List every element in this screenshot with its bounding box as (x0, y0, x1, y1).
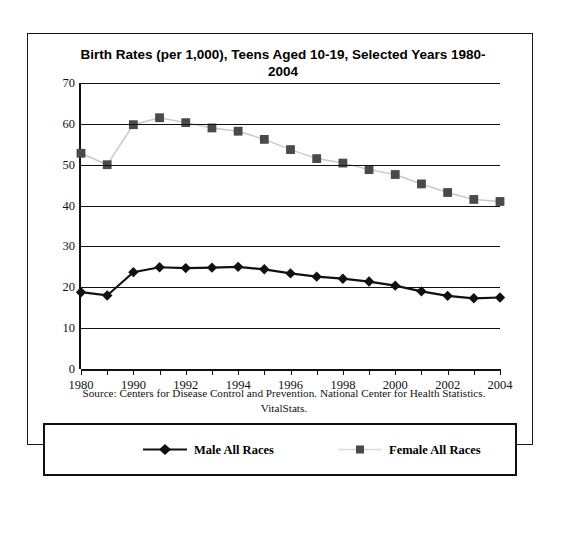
x-tick-1993 (212, 369, 213, 375)
legend-label-female: Female All Races (389, 442, 481, 457)
source-note: Source: Centers for Disease Control and … (74, 386, 494, 416)
data-point (233, 262, 243, 272)
x-tick-1980 (81, 369, 82, 375)
gridline-30 (81, 246, 500, 247)
x-tick-2003 (474, 369, 475, 375)
x-tick-1996 (291, 369, 292, 375)
data-point (391, 170, 400, 179)
x-tick-2002 (448, 369, 449, 375)
x-tick-1989 (107, 369, 108, 375)
data-point (443, 188, 452, 197)
y-tick-label-10: 10 (63, 321, 76, 336)
data-point (390, 280, 400, 290)
data-point (442, 291, 452, 301)
data-point (469, 195, 478, 204)
plot-area: 0102030405060701980199019921994199619982… (79, 83, 500, 369)
y-tick-label-20: 20 (63, 280, 76, 295)
y-tick-label-0: 0 (69, 362, 75, 377)
data-point (496, 197, 505, 206)
series-line-female-all-races (81, 118, 500, 202)
data-point (260, 135, 269, 144)
x-tick-1999 (369, 369, 370, 375)
data-point (312, 154, 321, 163)
data-point (311, 271, 321, 281)
data-point (285, 268, 295, 278)
gridline-20 (81, 287, 500, 288)
x-tick-1997 (317, 369, 318, 375)
x-tick-2004 (500, 369, 501, 375)
x-tick-2000 (395, 369, 396, 375)
x-tick-1991 (160, 369, 161, 375)
y-tick-label-60: 60 (63, 116, 76, 131)
x-tick-1990 (133, 369, 134, 375)
y-tick-label-70: 70 (63, 76, 76, 91)
male-marker-icon (143, 443, 187, 457)
chart-frame: Birth Rates (per 1,000), Teens Aged 10-1… (27, 33, 533, 445)
series-lines (81, 83, 500, 369)
data-point (259, 264, 269, 274)
x-tick-1992 (186, 369, 187, 375)
data-point (154, 262, 164, 272)
chart-title: Birth Rates (per 1,000), Teens Aged 10-1… (78, 46, 488, 80)
data-point (76, 287, 86, 297)
data-point (155, 113, 164, 122)
data-point (417, 180, 426, 189)
y-tick-label-50: 50 (63, 157, 76, 172)
gridline-10 (81, 328, 500, 329)
data-point (181, 263, 191, 273)
y-tick-label-30: 30 (63, 239, 76, 254)
x-tick-1998 (343, 369, 344, 375)
data-point (207, 262, 217, 272)
data-point (364, 276, 374, 286)
data-point (234, 127, 243, 136)
x-tick-1994 (238, 369, 239, 375)
chart-legend: Male All Races Female All Races (43, 423, 517, 476)
gridline-50 (81, 165, 500, 166)
x-tick-1995 (264, 369, 265, 375)
data-point (469, 293, 479, 303)
data-point (338, 159, 347, 168)
gridline-70 (81, 83, 500, 84)
data-point (181, 118, 190, 127)
legend-label-male: Male All Races (194, 442, 274, 457)
data-point (286, 145, 295, 154)
x-tick-2001 (421, 369, 422, 375)
gridline-40 (81, 206, 500, 207)
y-tick-label-40: 40 (63, 198, 76, 213)
data-point (208, 124, 217, 133)
data-point (495, 292, 505, 302)
gridline-60 (81, 124, 500, 125)
legend-item-female: Female All Races (338, 442, 481, 457)
data-point (365, 165, 374, 174)
legend-item-male: Male All Races (143, 442, 274, 457)
data-point (77, 149, 86, 158)
female-marker-icon (338, 443, 382, 457)
data-point (338, 274, 348, 284)
